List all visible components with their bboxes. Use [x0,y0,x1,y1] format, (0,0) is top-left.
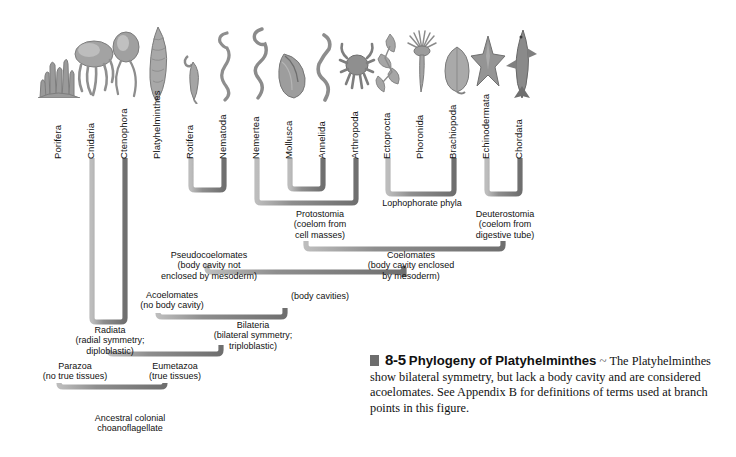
bar-coelomates [306,241,503,249]
taxon-label-ctenophora: Ctenophora [118,108,129,159]
caption-tilde: ~ [600,353,607,368]
node-label-bilateria: Bilateria (bilateral symmetry; triplobla… [190,320,316,351]
node-label-pseudocoelomates: Pseudocoelomates (body cavity not enclos… [138,250,280,281]
node-label-radiata: Radiata (radial symmetry; diploblastic) [45,325,175,356]
node-pseudocoelomates-line2: (body cavity not [138,260,280,270]
node-bilateria-line3: triploblastic) [190,341,316,351]
clade-pseudocoelomates [191,158,224,190]
node-label-body-cavities: (body cavities) [262,291,378,301]
node-pseudocoelomates-line1: Pseudocoelomates [138,250,280,260]
node-label-coelomates: Coelomates (body cavity enclosed by meso… [338,250,484,281]
node-acoelomates-line2: (no body cavity) [110,300,234,310]
taxon-label-chordata: Chordata [513,119,524,159]
figure-title: Phylogeny of Platyhelminthes [409,353,597,368]
node-pseudocoelomates-line3: enclosed by mesoderm) [138,271,280,281]
node-coelomates-line3: by mesoderm) [338,271,484,281]
node-eumetazoa-line1: Eumetazoa [113,361,237,371]
node-bilateria-line1: Bilateria [190,320,316,330]
node-protostomia-line3: cell masses) [262,230,378,240]
node-deuterostomia-line3: digestive tube) [446,230,564,240]
node-acoelomates-line1: Acoelomates [110,290,234,300]
node-bilateria-line2: (bilateral symmetry; [190,330,316,340]
phylogeny-figure: Porifera Cnidaria Ctenophora Platyhelmin… [0,0,736,457]
node-deuterostomia-line1: Deuterostomia [446,209,564,219]
taxon-label-annelida: Annelida [316,121,327,159]
node-label-protostomia: Protostomia (coelom from cell masses) [262,209,378,240]
node-label-acoelomates: Acoelomates (no body cavity) [110,290,234,311]
node-deuterostomia-line2: (coelom from [446,219,564,229]
taxon-label-ectoprocta: Ectoprocta [381,113,392,159]
clade-mollusca-annelida [290,158,323,189]
figure-number: 8-5 [385,351,406,368]
node-protostomia-line2: (coelom from [262,219,378,229]
node-radiata-line3: diploblastic) [45,346,175,356]
node-label-deuterostomia: Deuterostomia (coelom from digestive tub… [446,209,564,240]
taxon-label-phoronida: Phoronida [414,115,425,159]
node-body-cavities-line1: (body cavities) [262,291,378,301]
node-label-eumetazoa: Eumetazoa (true tissues) [113,361,237,382]
node-radiata-line2: (radial symmetry; [45,335,175,345]
bar-root [59,383,165,387]
node-protostomia-line1: Protostomia [262,209,378,219]
taxon-label-echinodermata: Echinodermata [480,94,491,159]
caption-marker-icon [370,355,379,366]
node-ancestor-line1: Ancestral colonial [58,413,202,423]
taxon-label-rotifera: Rotifera [184,125,195,159]
clade-deuterostomia [487,158,520,194]
taxon-label-nemertea: Nemertea [250,116,261,159]
node-label-lophophorate-phyla: Lophophorate phyla [363,198,481,208]
node-lophophorate-line1: Lophophorate phyla [363,198,481,208]
figure-caption: 8-5 Phylogeny of Platyhelminthes ~ The P… [370,352,722,416]
node-ancestor-line2: choanoflagellate [58,423,202,433]
node-eumetazoa-line2: (true tissues) [113,371,237,381]
taxon-label-arthropoda: Arthropoda [349,111,360,159]
taxon-label-platyhelminthes: Platyhelminthes [151,90,162,159]
taxon-label-nematoda: Nematoda [217,114,228,159]
node-radiata-line1: Radiata [45,325,175,335]
taxon-label-porifera: Porifera [52,125,63,159]
taxon-label-brachiopoda: Brachiopoda [447,105,458,159]
node-coelomates-line1: Coelomates [338,250,484,260]
node-label-ancestor: Ancestral colonial choanoflagellate [58,413,202,434]
node-coelomates-line2: (body cavity enclosed [338,260,484,270]
taxon-label-cnidaria: Cnidaria [85,123,96,159]
taxon-label-mollusca: Mollusca [283,121,294,159]
